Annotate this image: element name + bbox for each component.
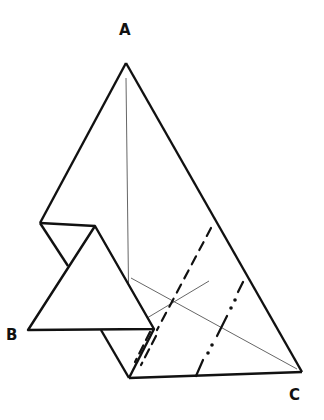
origami-diagram	[0, 0, 324, 420]
flap-left	[40, 223, 68, 266]
